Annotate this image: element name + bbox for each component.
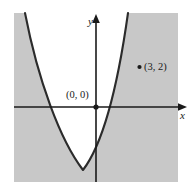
marked-point-marker bbox=[137, 65, 141, 69]
parabola-figure: y x (0, 0) (3, 2) bbox=[0, 0, 195, 194]
plot-canvas bbox=[0, 0, 195, 194]
marked-point-label: (3, 2) bbox=[144, 62, 167, 73]
origin-point-label: (0, 0) bbox=[66, 90, 89, 101]
x-axis-label: x bbox=[180, 110, 185, 121]
origin-point-marker bbox=[93, 104, 98, 109]
y-axis-label: y bbox=[88, 16, 93, 27]
